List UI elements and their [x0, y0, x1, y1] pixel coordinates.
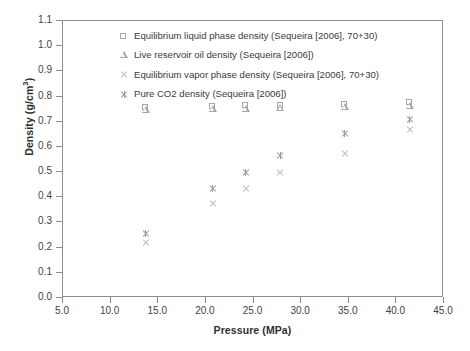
x-axis-title: Pressure (MPa)	[62, 324, 443, 336]
bold-star-marker-icon	[242, 168, 250, 176]
y-tick-label: 0.9	[12, 64, 52, 75]
legend-label: Equilibrium vapor phase density (Sequeir…	[134, 70, 379, 80]
x-tick-mark	[253, 297, 254, 303]
y-tick-label: 0.2	[12, 241, 52, 252]
x-tick-label: 40.0	[373, 305, 417, 316]
x-tick-mark	[348, 297, 349, 303]
legend-label: Live reservoir oil density (Sequeira [20…	[134, 50, 314, 60]
legend-item[interactable]: Equilibrium liquid phase density (Sequei…	[118, 26, 428, 46]
y-tick-label: 0.0	[12, 291, 52, 302]
data-point	[345, 154, 349, 158]
data-point	[410, 120, 414, 124]
data-point	[246, 189, 250, 193]
data-point	[213, 204, 217, 208]
bold-star-marker-icon	[142, 229, 150, 237]
legend-marker	[118, 87, 132, 101]
y-tick-label: 0.6	[12, 140, 52, 151]
bold-star-marker-icon	[209, 185, 217, 193]
legend-item[interactable]: Live reservoir oil density (Sequeira [20…	[118, 46, 428, 66]
legend-marker	[118, 29, 132, 43]
x-cross-marker-icon	[142, 239, 150, 247]
data-point	[280, 173, 284, 177]
x-cross-marker-icon	[120, 71, 128, 79]
x-tick-label: 20.0	[183, 305, 227, 316]
data-point	[146, 243, 150, 247]
data-point	[280, 108, 284, 111]
data-point	[280, 156, 284, 160]
x-tick-mark	[110, 297, 111, 303]
x-tick-mark	[443, 297, 444, 303]
open-triangle-marker-icon	[242, 105, 250, 112]
x-tick-label: 15.0	[135, 305, 179, 316]
open-triangle-marker-icon	[209, 105, 217, 112]
x-tick-mark	[62, 297, 63, 303]
bold-star-marker-icon	[120, 90, 128, 98]
data-point	[410, 129, 414, 133]
x-tick-label: 35.0	[326, 305, 370, 316]
y-tick-label: 0.4	[12, 190, 52, 201]
y-tick-label: 0.7	[12, 115, 52, 126]
legend-label: Pure CO2 density (Sequeira [2006])	[134, 89, 287, 99]
legend-marker	[118, 48, 132, 62]
y-tick-label: 0.1	[12, 266, 52, 277]
data-point	[345, 107, 349, 110]
x-cross-marker-icon	[242, 185, 250, 193]
x-tick-mark	[395, 297, 396, 303]
data-point	[410, 106, 414, 109]
y-tick-label: 0.3	[12, 215, 52, 226]
density-vs-pressure-chart: Density (g/cm3) 0.00.10.20.30.40.50.60.7…	[0, 0, 470, 351]
data-point	[345, 133, 349, 137]
x-tick-mark	[300, 297, 301, 303]
data-point	[213, 189, 217, 193]
x-tick-label: 45.0	[421, 305, 465, 316]
data-point	[246, 172, 250, 176]
bold-star-marker-icon	[341, 129, 349, 137]
open-triangle-marker-icon	[276, 104, 284, 111]
x-tick-mark	[205, 297, 206, 303]
x-tick-label: 30.0	[278, 305, 322, 316]
data-point	[146, 110, 150, 113]
data-point	[246, 109, 250, 112]
legend-marker	[118, 68, 132, 82]
legend-item[interactable]: Equilibrium vapor phase density (Sequeir…	[118, 65, 428, 85]
legend-item[interactable]: Pure CO2 density (Sequeira [2006])	[118, 85, 428, 105]
y-tick-label: 0.8	[12, 90, 52, 101]
y-tick-label: 1.1	[12, 14, 52, 25]
x-tick-label: 25.0	[231, 305, 275, 316]
open-square-marker-icon	[120, 33, 126, 39]
legend-label: Equilibrium liquid phase density (Sequei…	[134, 31, 377, 41]
x-tick-label: 10.0	[88, 305, 132, 316]
open-triangle-marker-icon	[120, 51, 128, 58]
x-cross-marker-icon	[341, 150, 349, 158]
bold-star-marker-icon	[406, 116, 414, 124]
x-cross-marker-icon	[406, 125, 414, 133]
bold-star-marker-icon	[276, 152, 284, 160]
open-triangle-marker-icon	[142, 106, 150, 113]
y-tick-label: 1.0	[12, 39, 52, 50]
y-tick-label: 0.5	[12, 165, 52, 176]
x-cross-marker-icon	[209, 200, 217, 208]
x-tick-label: 5.0	[40, 305, 84, 316]
x-tick-mark	[157, 297, 158, 303]
x-cross-marker-icon	[276, 169, 284, 177]
data-point	[146, 233, 150, 237]
chart-legend: Equilibrium liquid phase density (Sequei…	[118, 26, 428, 104]
data-point	[213, 109, 217, 112]
